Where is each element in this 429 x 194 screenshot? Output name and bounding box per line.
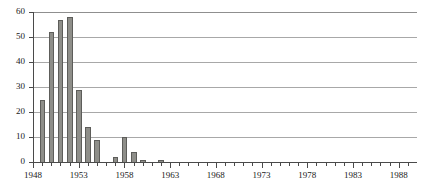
x-tick-mark	[316, 163, 317, 166]
bar	[76, 90, 82, 163]
bar	[67, 17, 73, 162]
y-tick-label: 50	[0, 32, 25, 41]
x-tick-mark-major	[124, 163, 125, 168]
x-tick-mark-major	[216, 163, 217, 168]
x-tick-mark	[390, 163, 391, 166]
x-tick-mark	[298, 163, 299, 166]
bar	[40, 100, 46, 163]
x-tick-mark	[198, 163, 199, 166]
bar	[49, 32, 55, 162]
x-tick-mark	[252, 163, 253, 166]
x-tick-mark	[234, 163, 235, 166]
y-tick-label: 40	[0, 57, 25, 66]
x-tick-mark	[335, 163, 336, 166]
plot-area	[33, 12, 417, 162]
x-tick-mark	[371, 163, 372, 166]
y-tick-label: 10	[0, 132, 25, 141]
x-tick-mark	[362, 163, 363, 166]
bar	[122, 137, 128, 162]
bar	[131, 152, 137, 162]
x-tick-label: 1948	[13, 170, 53, 180]
bar-chart: 0102030405060 19481953195819631968197319…	[0, 0, 429, 194]
x-tick-mark	[161, 163, 162, 166]
x-tick-mark	[70, 163, 71, 166]
x-tick-mark-major	[33, 163, 34, 168]
x-tick-mark	[60, 163, 61, 166]
x-tick-mark	[51, 163, 52, 166]
x-tick-mark-major	[79, 163, 80, 168]
y-tick-label: 60	[0, 7, 25, 16]
x-tick-label: 1963	[150, 170, 190, 180]
x-tick-mark	[42, 163, 43, 166]
x-tick-mark	[152, 163, 153, 166]
bar	[113, 157, 119, 162]
x-tick-mark-major	[307, 163, 308, 168]
x-tick-mark-major	[353, 163, 354, 168]
x-tick-mark	[344, 163, 345, 166]
x-tick-mark-major	[399, 163, 400, 168]
x-tick-mark	[188, 163, 189, 166]
x-tick-mark	[143, 163, 144, 166]
x-tick-mark	[326, 163, 327, 166]
x-tick-mark	[106, 163, 107, 166]
x-tick-mark	[97, 163, 98, 166]
x-tick-label: 1953	[59, 170, 99, 180]
x-tick-mark	[207, 163, 208, 166]
x-tick-mark	[243, 163, 244, 166]
bar	[58, 20, 64, 163]
x-tick-mark	[179, 163, 180, 166]
x-tick-label: 1973	[242, 170, 282, 180]
x-tick-mark	[289, 163, 290, 166]
x-tick-mark	[88, 163, 89, 166]
x-tick-mark	[225, 163, 226, 166]
x-tick-mark	[408, 163, 409, 166]
x-tick-mark	[271, 163, 272, 166]
x-tick-label: 1988	[379, 170, 419, 180]
x-tick-mark	[380, 163, 381, 166]
x-tick-label: 1978	[287, 170, 327, 180]
x-tick-mark	[280, 163, 281, 166]
x-tick-label: 1968	[196, 170, 236, 180]
x-tick-mark-major	[170, 163, 171, 168]
bar	[158, 160, 164, 163]
x-tick-label: 1983	[333, 170, 373, 180]
bar	[140, 160, 146, 163]
bar	[94, 140, 100, 163]
x-tick-mark-major	[262, 163, 263, 168]
y-tick-label: 20	[0, 107, 25, 116]
x-tick-label: 1958	[104, 170, 144, 180]
bar	[85, 127, 91, 162]
y-tick-label: 30	[0, 82, 25, 91]
y-tick-label: 0	[0, 157, 25, 166]
x-tick-mark	[134, 163, 135, 166]
x-tick-mark	[115, 163, 116, 166]
